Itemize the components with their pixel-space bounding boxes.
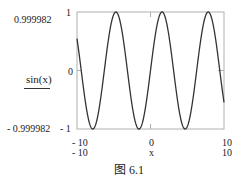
y-axis-label: sin(x) [26, 74, 52, 85]
y-min-range-label: - 0.999982 [7, 123, 50, 134]
x-range-right: 10 [222, 147, 232, 158]
y-tick-bottom: - 1 [60, 123, 71, 134]
y-tick-top: 1 [66, 7, 71, 18]
figure-caption: 图 6.1 [114, 160, 144, 178]
x-range-left: - 10 [72, 147, 88, 158]
sine-plot [0, 0, 246, 183]
sine-curve [77, 12, 224, 129]
x-axis-label: x [149, 147, 154, 158]
y-axis-label-underline [24, 88, 50, 89]
y-tick-mid: 0 [68, 66, 73, 77]
y-max-range-label: 0.999982 [14, 14, 52, 25]
